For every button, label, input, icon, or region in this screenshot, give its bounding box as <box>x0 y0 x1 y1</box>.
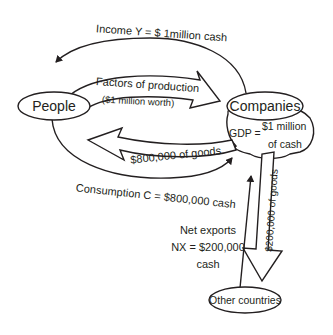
net-exports-flow-arrow <box>240 176 251 288</box>
gdp-label-line1: GDP = <box>229 127 261 139</box>
gdp-label-line3: of cash <box>268 138 302 150</box>
other-countries-label: Other countries <box>209 294 281 306</box>
net-exports-label-line2: NX = $200,000 <box>171 241 245 253</box>
circular-flow-diagram: Income Y = $ 1million cash Factors of pr… <box>0 0 333 335</box>
net-exports-label-line1: Net exports <box>180 224 237 236</box>
people-node: People <box>18 92 90 120</box>
gdp-label-line2: $1 million <box>262 120 307 132</box>
people-label: People <box>32 98 76 114</box>
net-exports-label-line3: cash <box>196 258 219 270</box>
consumption-label: Consumption C = $800,000 cash <box>75 181 236 210</box>
companies-label: Companies <box>230 98 301 114</box>
other-countries-node: Other countries <box>209 287 281 313</box>
companies-node: Companies <box>227 92 303 120</box>
